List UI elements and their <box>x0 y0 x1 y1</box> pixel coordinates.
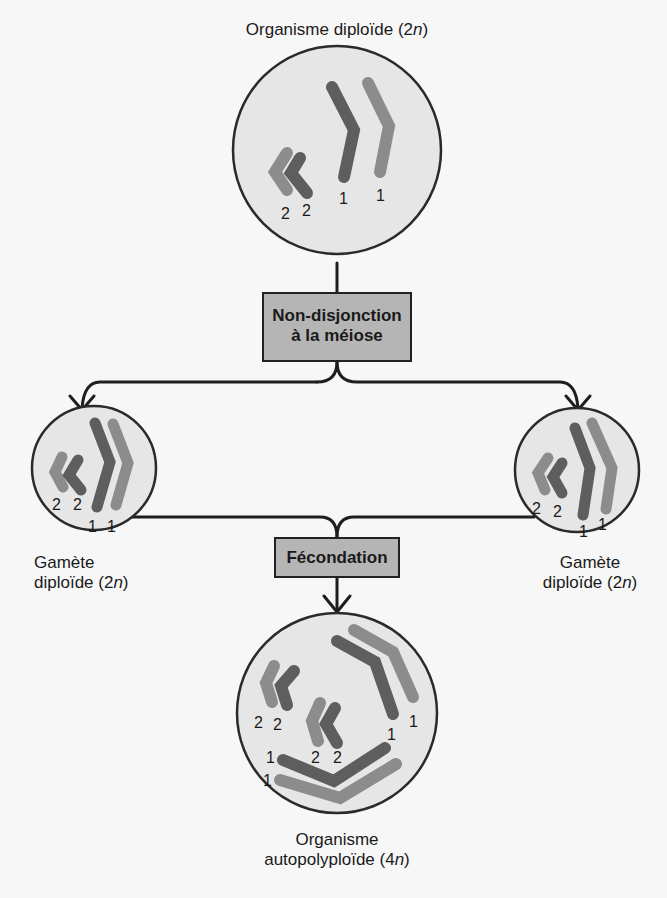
chr-label: 1 <box>409 713 418 730</box>
chr-label: 2 <box>302 202 311 219</box>
top-cell-label: Organisme diploïde (2n) <box>187 20 487 40</box>
line-gamete-left-to-fusion <box>122 517 337 537</box>
chr-label: 2 <box>73 496 82 513</box>
process-box-fertilization: Fécondation <box>274 537 400 578</box>
diagram-canvas: 2 2 1 1 2 2 1 1 2 2 1 1 2 2 2 2 1 1 1 1 <box>0 0 667 898</box>
chr-label: 2 <box>273 716 282 733</box>
chr-label: 1 <box>88 518 97 535</box>
chr-label: 1 <box>266 749 275 766</box>
chr-label: 1 <box>339 190 348 207</box>
chr-label: 2 <box>52 496 61 513</box>
cell-gamete-left <box>32 406 156 530</box>
chr-label: 1 <box>579 523 588 540</box>
chr-label: 2 <box>553 503 562 520</box>
line-split-left <box>82 382 317 408</box>
bottom-cell-label: Organisme autopolyploïde (4n) <box>217 830 457 870</box>
chr-label: 2 <box>311 749 320 766</box>
process-box-non-disjunction: Non-disjonction à la méiose <box>262 292 412 362</box>
gamete-right-label: Gamète diploïde (2n) <box>520 553 660 593</box>
gamete-left-label: Gamète diploïde (2n) <box>20 553 164 593</box>
chr-label: 2 <box>333 749 342 766</box>
chr-label: 1 <box>263 772 272 789</box>
chr-label: 1 <box>107 518 116 535</box>
chr-label: 2 <box>254 714 263 731</box>
chr-label: 1 <box>598 516 607 533</box>
chr-label: 1 <box>376 187 385 204</box>
line-gamete-right-to-fusion <box>337 517 534 537</box>
chr-label: 2 <box>532 500 541 517</box>
chr-label: 2 <box>281 205 290 222</box>
cell-diploid-organism <box>233 46 441 254</box>
chr-label: 1 <box>387 726 396 743</box>
line-box-to-split <box>337 362 578 408</box>
